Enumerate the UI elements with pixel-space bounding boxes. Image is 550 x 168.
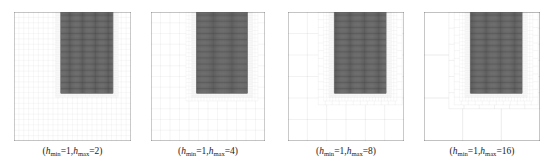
panel-caption: (hmin=1,hmax=4) xyxy=(151,146,265,156)
h-min-value: 1 xyxy=(66,146,71,156)
mesh-svg xyxy=(151,12,265,141)
h-min-subscript: min xyxy=(324,150,334,157)
refined-region xyxy=(334,12,386,93)
h-max-value: 16 xyxy=(502,146,512,156)
caption-close-paren: ) xyxy=(99,146,102,156)
h-min-value: 1 xyxy=(340,146,345,156)
panel-caption: (hmin=1,hmax=2) xyxy=(14,146,131,156)
mesh-svg xyxy=(288,12,404,141)
h-min-value: 1 xyxy=(473,146,478,156)
h-max-subscript: max xyxy=(351,150,362,157)
mesh-grid-area xyxy=(424,12,540,141)
refined-region xyxy=(61,12,113,93)
mesh-svg xyxy=(14,12,131,141)
h-min-subscript: min xyxy=(458,150,468,157)
mesh-grid-area xyxy=(151,12,265,141)
mesh-grid-area xyxy=(14,12,131,141)
mesh-panel: (hmin=1,hmax=2) xyxy=(14,0,131,168)
mesh-refinement-figure: (hmin=1,hmax=2) (hmin=1,hmax=4) (hmin=1,… xyxy=(0,0,550,168)
mesh-panel: (hmin=1,hmax=4) xyxy=(151,0,265,168)
refined-region xyxy=(197,12,248,93)
h-min-subscript: min xyxy=(50,150,60,157)
mesh-panel: (hmin=1,hmax=8) xyxy=(288,0,404,168)
h-min-subscript: min xyxy=(186,150,196,157)
h-max-subscript: max xyxy=(213,150,224,157)
refined-region xyxy=(470,12,522,93)
caption-close-paren: ) xyxy=(373,146,376,156)
panel-caption: (hmin=1,hmax=16) xyxy=(424,146,540,156)
mesh-panel: (hmin=1,hmax=16) xyxy=(424,0,540,168)
h-max-subscript: max xyxy=(78,150,89,157)
h-min-value: 1 xyxy=(202,146,207,156)
h-min-symbol: h xyxy=(453,146,458,156)
caption-close-paren: ) xyxy=(235,146,238,156)
caption-close-paren: ) xyxy=(511,146,514,156)
mesh-grid-area xyxy=(288,12,404,141)
panel-caption: (hmin=1,hmax=8) xyxy=(288,146,404,156)
h-max-subscript: max xyxy=(485,150,496,157)
mesh-svg xyxy=(424,12,540,141)
